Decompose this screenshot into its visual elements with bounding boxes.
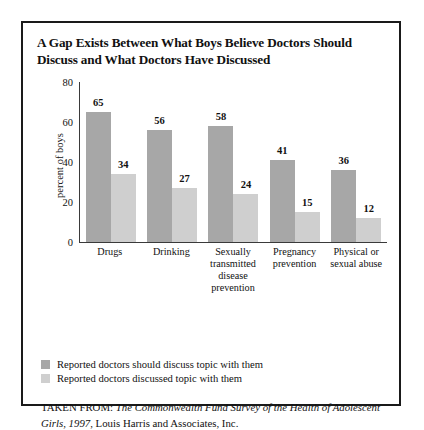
bar-drinking-discussed[interactable]: 27 [172,188,197,242]
source-prefix: TAKEN FROM: [41,401,113,413]
source-publisher: , Louis Harris and Associates, Inc. [90,417,238,429]
x-label-line: Physical or [325,246,387,258]
legend-label: Reported doctors should discuss topic wi… [57,359,263,370]
bar-group-drinking: 56 27 [147,82,197,242]
legend-swatch-icon [41,360,50,369]
bar-group-std-prevention: 58 24 [208,82,258,242]
chart-legend: Reported doctors should discuss topic wi… [41,359,399,384]
x-label-line: prevention [264,258,326,270]
x-label-drugs: Drugs [79,246,141,294]
plot-area: 65 34 56 27 58 [79,82,387,243]
bar-drugs-discussed[interactable]: 34 [111,174,136,242]
x-label-line: Drinking [141,246,203,258]
y-tick-60: 60 [47,117,73,128]
x-label-line: Drugs [79,246,141,258]
figure-title: A Gap Exists Between What Boys Believe D… [37,34,385,68]
bar-std-should[interactable]: 58 [208,126,233,242]
legend-label: Reported doctors discussed topic with th… [57,373,242,384]
bar-value-label: 41 [277,145,288,156]
x-label-physical-sexual-abuse: Physical or sexual abuse [325,246,387,294]
bar-value-label: 56 [154,115,165,126]
legend-item-discussed: Reported doctors discussed topic with th… [41,373,399,384]
bar-value-label: 36 [339,155,350,166]
bar-groups: 65 34 56 27 58 [80,82,387,242]
x-label-line: Sexually [202,246,264,258]
x-label-pregnancy-prevention: Pregnancy prevention [264,246,326,294]
x-axis-labels: Drugs Drinking Sexually transmitted dise… [79,246,387,294]
bar-value-label: 12 [364,203,375,214]
x-label-line: prevention [202,282,264,294]
bar-drinking-should[interactable]: 56 [147,130,172,242]
bar-value-label: 15 [302,197,313,208]
y-tick-20: 20 [47,197,73,208]
x-label-std-prevention: Sexually transmitted disease prevention [202,246,264,294]
bar-value-label: 58 [216,111,227,122]
x-label-drinking: Drinking [141,246,203,294]
legend-swatch-icon [41,374,50,383]
figure-frame: A Gap Exists Between What Boys Believe D… [21,21,401,406]
x-label-line: Pregnancy [264,246,326,258]
bar-value-label: 24 [241,179,252,190]
legend-item-should-discuss: Reported doctors should discuss topic wi… [41,359,399,370]
bar-drugs-should[interactable]: 65 [86,112,111,242]
bar-value-label: 34 [118,159,129,170]
bar-value-label: 65 [93,97,104,108]
bar-chart: percent of boys 80 60 40 20 0 65 34 [33,82,389,287]
y-tick-80: 80 [47,77,73,88]
bar-group-physical-sexual-abuse: 36 12 [331,82,381,242]
x-label-line: disease [202,270,264,282]
y-tick-0: 0 [47,237,73,248]
y-axis-ticks: 80 60 40 20 0 [47,82,73,242]
source-citation: TAKEN FROM: The Commonwealth Fund Survey… [41,400,383,430]
bar-group-pregnancy-prevention: 41 15 [270,82,320,242]
bar-abuse-discussed[interactable]: 12 [356,218,381,242]
bar-pregnancy-should[interactable]: 41 [270,160,295,242]
bar-group-drugs: 65 34 [86,82,136,242]
y-tick-40: 40 [47,157,73,168]
x-label-line: transmitted [202,258,264,270]
bar-abuse-should[interactable]: 36 [331,170,356,242]
bar-pregnancy-discussed[interactable]: 15 [295,212,320,242]
bar-value-label: 27 [179,173,190,184]
x-label-line: sexual abuse [325,258,387,270]
bar-std-discussed[interactable]: 24 [233,194,258,242]
